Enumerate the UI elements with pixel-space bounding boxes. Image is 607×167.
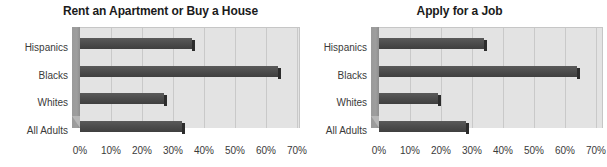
bar-all-adults-face [379,121,466,132]
category-axis-right: Hispanics Blacks Whites All Adults [303,30,371,136]
bar-hispanics-cap [484,40,487,51]
value-axis-right: 0% 10% 20% 30% 40% 50% 60% 70% [371,145,603,159]
category-label-hispanics: Hispanics [0,42,68,53]
bar-whites-face [379,93,438,104]
bar-hispanics-cap [192,40,195,51]
bar-all-adults-cap [466,123,469,134]
category-axis-left: Hispanics Blacks Whites All Adults [0,30,72,136]
category-label-whites: Whites [299,97,367,108]
plot-area-left [72,27,300,140]
category-label-all-adults: All Adults [299,125,367,136]
xtick-40: 40% [194,145,214,156]
category-label-whites: Whites [0,97,68,108]
chart-title-left: Rent an Apartment or Buy a House [0,4,303,18]
category-label-hispanics: Hispanics [299,42,367,53]
plot-left-wall [72,27,80,128]
bar-blacks-face [379,66,577,77]
bar-all-adults-cap [182,123,185,134]
bar-whites-face [80,93,164,104]
xtick-20: 20% [431,145,451,156]
bar-hispanics-face [379,38,484,49]
category-label-blacks: Blacks [299,70,367,81]
xtick-0: 0% [73,145,87,156]
category-label-blacks: Blacks [0,70,68,81]
bar-whites-cap [164,95,167,106]
xtick-60: 60% [555,145,575,156]
bar-blacks-cap [278,68,281,79]
xtick-40: 40% [493,145,513,156]
xtick-0: 0% [372,145,386,156]
xtick-60: 60% [256,145,276,156]
plot-left-wall [371,27,379,128]
xtick-10: 10% [400,145,420,156]
bar-blacks-face [80,66,278,77]
xtick-50: 50% [225,145,245,156]
bar-all-adults-face [80,121,182,132]
xtick-30: 30% [462,145,482,156]
xtick-30: 30% [163,145,183,156]
xtick-10: 10% [101,145,121,156]
category-label-all-adults: All Adults [0,125,68,136]
bar-hispanics-face [80,38,192,49]
plot-area-right [371,27,603,140]
bar-series-right [379,27,603,128]
dual-bar-chart-figure: Rent an Apartment or Buy a House Hispani… [0,0,607,167]
xtick-20: 20% [132,145,152,156]
bar-whites-cap [438,95,441,106]
chart-panel-apply-for-job: Apply for a Job Hispanics Blacks Whites … [303,0,606,167]
xtick-50: 50% [524,145,544,156]
bar-blacks-cap [577,68,580,79]
chart-panel-rent-or-buy: Rent an Apartment or Buy a House Hispani… [0,0,303,167]
chart-title-right: Apply for a Job [303,4,606,18]
bar-series-left [80,27,300,128]
value-axis-left: 0% 10% 20% 30% 40% 50% 60% 70% [72,145,300,159]
xtick-70: 70% [586,145,606,156]
